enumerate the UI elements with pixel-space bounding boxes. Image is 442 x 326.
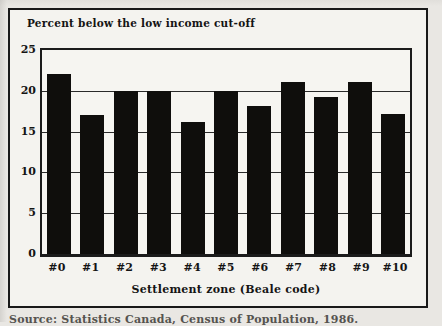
x-tick-label: #3 [141,261,175,274]
plot-area [40,48,412,257]
x-tick-label: #10 [378,261,412,274]
bar-slot [142,50,175,254]
x-tick-label: #4 [175,261,209,274]
bar-#3 [147,91,171,254]
x-tick-label: #0 [40,261,74,274]
bar-#6 [247,106,271,255]
bar-#8 [314,97,338,254]
bar-slot [176,50,209,254]
x-tick-label: #2 [108,261,142,274]
x-tick-label: #9 [344,261,378,274]
bar-#1 [80,115,104,254]
bar-#4 [181,122,205,254]
bar-slot [343,50,376,254]
x-axis-title: Settlement zone (Beale code) [40,283,412,296]
bar-#9 [348,82,372,254]
bars [42,50,410,254]
x-tick-label: #6 [243,261,277,274]
bar-slot [75,50,108,254]
bar-slot [276,50,309,254]
bar-slot [243,50,276,254]
bar-#10 [381,114,405,254]
bar-slot [310,50,343,254]
bar-#5 [214,91,238,254]
bar-#2 [114,91,138,254]
x-tick-label: #1 [74,261,108,274]
x-tick-label: #5 [209,261,243,274]
x-axis-tick-labels: #0#1#2#3#4#5#6#7#8#9#10 [40,261,412,274]
clipped-source-caption: Source: Statistics Canada, Census of Pop… [9,313,358,326]
bar-slot [209,50,242,254]
x-tick-label: #7 [277,261,311,274]
chart-title: Percent below the low income cut-off [27,17,255,29]
bar-slot [377,50,410,254]
x-tick-label: #8 [311,261,345,274]
bar-slot [109,50,142,254]
bar-slot [42,50,75,254]
bar-#7 [281,82,305,254]
bar-#0 [47,74,71,254]
